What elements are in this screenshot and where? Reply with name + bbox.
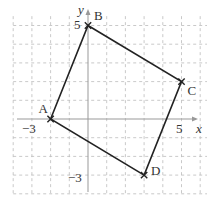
coordinate-plane: x y −3 5 5 −3 ABCD [0,0,207,205]
y-axis-arrow-icon [86,9,91,15]
points: ABCD [39,8,197,179]
x-tick-5: 5 [176,121,183,136]
point-label-c: C [188,83,197,98]
x-axis-label: x [195,121,202,136]
y-axis-label: y [76,2,84,17]
axes: x y −3 5 5 −3 [17,2,202,192]
point-label-d: D [151,163,160,178]
y-tick-5: 5 [74,17,81,32]
x-tick-neg3: −3 [22,121,36,136]
point-label-a: A [39,101,49,116]
y-tick-neg3: −3 [68,170,82,185]
point-label-b: B [94,8,103,23]
